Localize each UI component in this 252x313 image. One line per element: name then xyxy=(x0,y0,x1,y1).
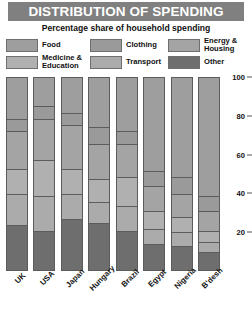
legend-swatch-food xyxy=(6,39,38,52)
bar-segment xyxy=(89,128,109,145)
y-axis-tick: 80 xyxy=(237,111,252,120)
y-axis-tick-mark xyxy=(247,193,252,194)
legend-item-clothing: Clothing xyxy=(90,37,168,53)
stacked-bar xyxy=(33,77,55,271)
bar-column-bdesh xyxy=(198,77,220,271)
y-axis-tick-mark xyxy=(247,77,252,78)
x-axis-label-nigeria: Nigeria xyxy=(171,273,193,311)
bar-segment xyxy=(89,180,109,203)
y-axis-tick: 40 xyxy=(237,189,252,198)
y-axis-tick-label: 20 xyxy=(237,228,245,237)
bar-segment xyxy=(7,78,27,120)
legend-item-medicine_education: Medicine &Education xyxy=(6,54,90,70)
bar-segment xyxy=(7,170,27,195)
x-axis-label-uk: UK xyxy=(6,273,28,311)
bar-segment xyxy=(117,132,137,145)
bar-segment xyxy=(7,195,27,226)
x-axis-label-japan: Japan xyxy=(61,273,83,311)
legend-label-food: Food xyxy=(42,41,61,49)
bar-segment xyxy=(34,120,54,160)
stacked-bar xyxy=(116,77,138,271)
bar-segment xyxy=(144,78,164,172)
bar-segment xyxy=(62,195,82,220)
y-axis-tick-label: 60 xyxy=(237,150,245,159)
bar-column-egypt xyxy=(143,77,165,271)
chart-title-bar: DISTRIBUTION OF SPENDING xyxy=(8,2,244,21)
y-axis-tick: 100 xyxy=(232,73,252,82)
x-axis-label-bdesh: B'desh xyxy=(198,273,220,311)
x-axis-label-text: UK xyxy=(13,271,27,285)
y-axis-tick-label: 40 xyxy=(237,189,245,198)
legend-swatch-other xyxy=(168,56,200,69)
stacked-bar xyxy=(143,77,165,271)
stacked-bar xyxy=(171,77,193,271)
bar-segment xyxy=(199,78,219,197)
chart-root: DISTRIBUTION OF SPENDING Percentage shar… xyxy=(0,0,252,313)
bars-container xyxy=(6,77,220,271)
plot-area xyxy=(6,77,220,271)
bar-segment xyxy=(34,78,54,107)
x-axis-label-egypt: Egypt xyxy=(143,273,165,311)
bar-segment xyxy=(199,243,219,253)
y-axis-tick-mark xyxy=(247,232,252,233)
bar-segment xyxy=(172,78,192,178)
bar-segment xyxy=(172,178,192,195)
bar-segment xyxy=(89,78,109,128)
legend-item-transport: Transport xyxy=(90,54,168,70)
bar-column-japan xyxy=(61,77,83,271)
bar-segment xyxy=(62,114,82,126)
bar-segment xyxy=(172,233,192,246)
bar-segment xyxy=(117,207,137,232)
bar-segment xyxy=(7,226,27,270)
bar-segment xyxy=(117,178,137,207)
bar-segment xyxy=(144,187,164,212)
bar-segment xyxy=(89,224,109,270)
y-axis-tick: 60 xyxy=(237,150,252,159)
bar-segment xyxy=(34,161,54,197)
chart-subtitle: Percentage share of household spending xyxy=(0,23,252,33)
bar-column-nigeria xyxy=(171,77,193,271)
legend-swatch-energy_housing xyxy=(168,39,200,52)
bar-segment xyxy=(144,172,164,187)
bar-segment xyxy=(62,220,82,270)
bar-column-uk xyxy=(6,77,28,271)
x-axis-label-text: USA xyxy=(39,269,57,287)
legend-item-energy_housing: Energy &Housing xyxy=(168,37,248,53)
bar-segment xyxy=(62,78,82,114)
x-axis-labels: UKUSAJapanHungaryBrazilEgyptNigeriaB'des… xyxy=(6,273,220,311)
legend-label-other: Other xyxy=(204,58,224,66)
bar-segment xyxy=(117,232,137,270)
bar-segment xyxy=(7,120,27,132)
bar-segment xyxy=(144,230,164,245)
bar-segment xyxy=(89,203,109,224)
bar-segment xyxy=(199,232,219,244)
page-title: DISTRIBUTION OF SPENDING xyxy=(28,4,223,19)
bar-segment xyxy=(62,170,82,195)
stacked-bar xyxy=(61,77,83,271)
stacked-bar xyxy=(198,77,220,271)
x-axis-label-brazil: Brazil xyxy=(116,273,138,311)
bar-segment xyxy=(89,145,109,180)
bar-segment xyxy=(117,145,137,178)
bar-segment xyxy=(172,195,192,218)
y-axis-tick-label: 100 xyxy=(232,73,245,82)
bar-segment xyxy=(62,126,82,170)
legend-label-energy_housing: Energy &Housing xyxy=(204,37,237,53)
y-axis: 10080604020 xyxy=(222,77,252,271)
y-axis-tick-mark xyxy=(247,115,252,116)
legend-label-transport: Transport xyxy=(126,58,161,66)
bar-segment xyxy=(199,197,219,212)
y-axis-tick-mark xyxy=(247,154,252,155)
stacked-bar xyxy=(88,77,110,271)
stacked-bar xyxy=(6,77,28,271)
y-axis-tick: 20 xyxy=(237,228,252,237)
bar-segment xyxy=(199,212,219,231)
legend-item-food: Food xyxy=(6,37,90,53)
bar-segment xyxy=(172,218,192,233)
bar-column-usa xyxy=(33,77,55,271)
bar-segment xyxy=(34,107,54,120)
bar-segment xyxy=(7,132,27,170)
legend-swatch-transport xyxy=(90,56,122,69)
x-axis-label-usa: USA xyxy=(33,273,55,311)
legend-swatch-clothing xyxy=(90,39,122,52)
